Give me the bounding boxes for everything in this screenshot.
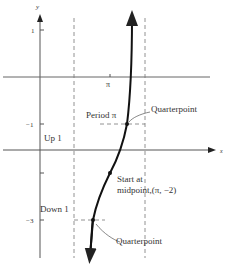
- x-axis-label: x: [219, 148, 223, 154]
- y-axis-label: y: [35, 3, 40, 11]
- midpoint: [108, 171, 112, 175]
- period-label: Period π: [86, 110, 117, 120]
- pi-tick-label: π: [106, 80, 110, 89]
- quarterpoint-top: [125, 122, 129, 126]
- quarterpoint-bottom: [91, 218, 95, 222]
- pointer-top: [129, 112, 150, 122]
- tick-m3-label: −3: [26, 217, 34, 225]
- start-label-1: Start at: [117, 174, 143, 184]
- up-label: Up 1: [44, 133, 62, 143]
- tick-m1-label: −1: [26, 121, 34, 129]
- quarterpoint-bottom-label: Quarterpoint: [116, 236, 162, 246]
- quarterpoint-top-label: Quarterpoint: [151, 104, 197, 114]
- start-label-2: midpoint,(π, −2): [117, 185, 176, 195]
- tick-1-label: 1: [31, 27, 35, 35]
- tangent-graph: y π x 1 −1 −3 Period π Quarterpoint Up 1…: [0, 0, 234, 268]
- down-label: Down 1: [40, 204, 69, 214]
